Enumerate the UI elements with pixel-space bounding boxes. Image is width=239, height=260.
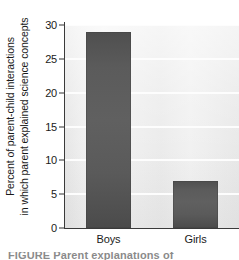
x-axis-category-labels: BoysGirls: [65, 233, 239, 251]
y-axis-tick-labels: 051015202530: [33, 25, 57, 228]
gridline: [65, 25, 239, 26]
x-axis-line: [64, 228, 239, 229]
x-axis-label-girls: Girls: [184, 233, 206, 245]
figure-caption-clipped: FIGURE Parent explanations of: [0, 252, 239, 260]
y-axis-tick-label: 0: [51, 222, 57, 234]
bar-chart-figure: Percent of parent-child interactions in …: [0, 0, 239, 260]
y-axis-tick-label: 20: [45, 87, 57, 99]
y-axis-tick-label: 30: [45, 19, 57, 31]
bar-boys: [86, 32, 131, 228]
x-axis-label-boys: Boys: [96, 233, 120, 245]
y-axis-title-line-1: Percent of parent-child interactions: [5, 17, 19, 215]
y-axis-tick-label: 10: [45, 154, 57, 166]
y-axis-tick-label: 15: [45, 121, 57, 133]
y-axis-title: Percent of parent-child interactions in …: [0, 0, 36, 232]
bar-girls: [173, 181, 218, 228]
y-axis-tick-label: 5: [51, 188, 57, 200]
y-axis-title-line-2: in which parent explained science concep…: [18, 17, 32, 215]
plot-area: [65, 25, 239, 228]
figure-caption-text: FIGURE Parent explanations of: [8, 252, 173, 260]
y-axis-tick-label: 25: [45, 53, 57, 65]
